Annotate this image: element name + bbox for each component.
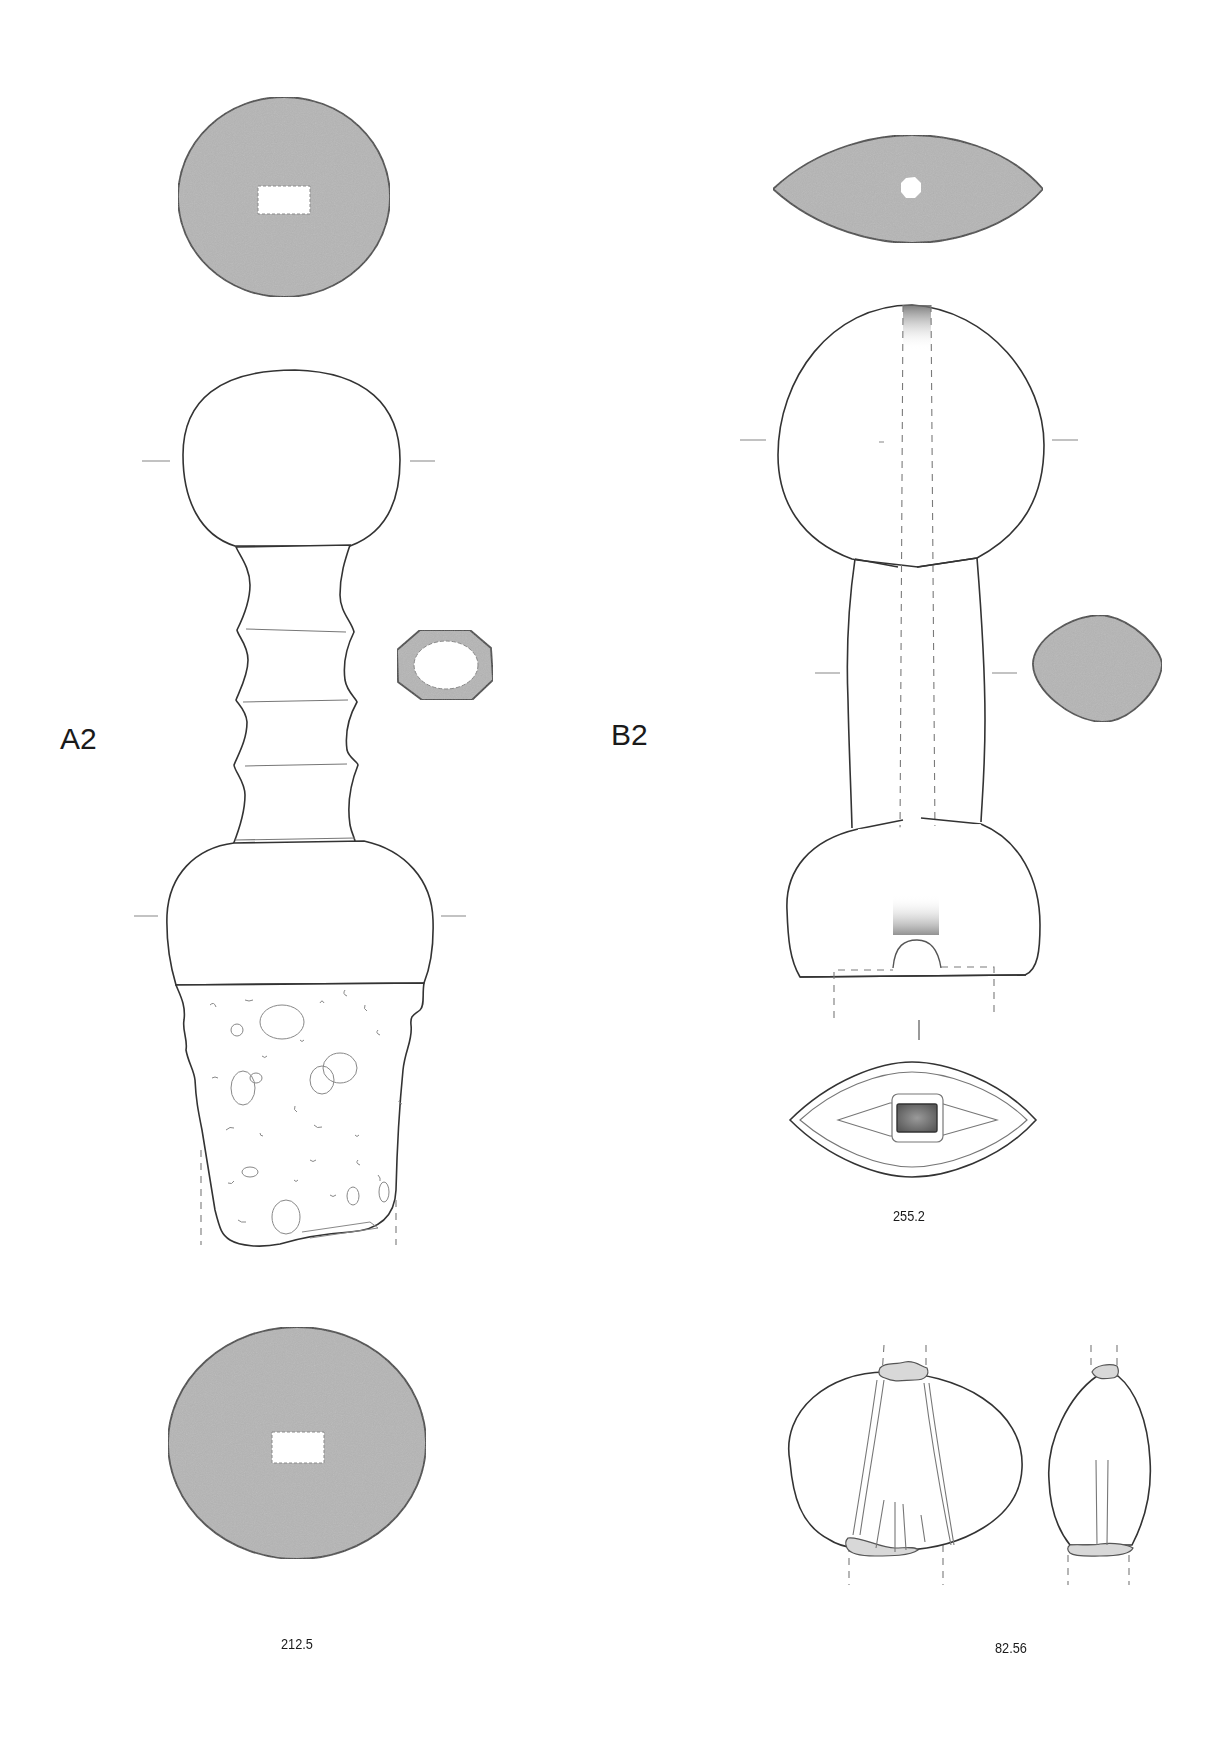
a2-pommel — [142, 370, 435, 546]
catalogue-number-pommel: 82.56 — [995, 1640, 1027, 1655]
figure-a2 — [134, 97, 493, 1559]
a2-guard — [134, 841, 466, 985]
b2-guard-underside — [790, 1062, 1036, 1177]
catalogue-number-b2: 255.2 — [893, 1208, 925, 1223]
a2-grip-section — [397, 630, 493, 700]
figure-label-b2: B2 — [611, 720, 648, 750]
figure-label-a2: A2 — [60, 724, 97, 754]
a2-guard-section — [168, 1327, 426, 1559]
a2-blade-fragment — [176, 983, 424, 1246]
a2-grip — [233, 545, 358, 845]
b2-pommel-section — [773, 135, 1043, 243]
b2-pommel — [740, 305, 1078, 835]
pommel-front-view — [789, 1345, 1022, 1585]
b2-guard — [787, 818, 1040, 1040]
figure-b2 — [740, 135, 1162, 1177]
a2-pommel-section — [178, 97, 390, 297]
b2-grip-section — [1033, 615, 1162, 722]
b2-grip — [815, 558, 1017, 828]
drawing-plate — [0, 0, 1219, 1746]
pommel-side-view — [1049, 1345, 1151, 1585]
figure-82-56 — [789, 1345, 1151, 1585]
catalogue-number-a2: 212.5 — [281, 1636, 313, 1651]
